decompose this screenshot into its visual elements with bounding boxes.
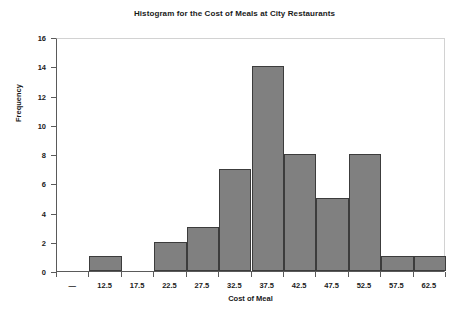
x-tick-mark xyxy=(445,272,446,277)
histogram-bar xyxy=(219,169,251,271)
chart-title: Histogram for the Cost of Meals at City … xyxy=(0,9,469,18)
histogram-bar xyxy=(154,242,186,271)
y-tick-label: 0 xyxy=(42,268,46,277)
x-axis: —12.517.522.527.532.537.542.547.552.557.… xyxy=(56,272,445,312)
x-tick-label: 37.5 xyxy=(259,281,274,290)
histogram-bar xyxy=(284,154,316,271)
x-tick-mark xyxy=(186,272,187,277)
y-tick-label: 14 xyxy=(38,63,46,72)
x-tick-label: 62.5 xyxy=(421,281,436,290)
y-tick-label: 10 xyxy=(38,121,46,130)
y-axis-title: Frequency xyxy=(14,84,23,122)
y-tick-label: 12 xyxy=(38,92,46,101)
x-tick-label: 52.5 xyxy=(357,281,372,290)
y-tick-label: 8 xyxy=(42,151,46,160)
bars-layer xyxy=(57,39,444,271)
y-tick-label: 4 xyxy=(42,209,46,218)
x-tick-label: 17.5 xyxy=(130,281,145,290)
x-tick-mark xyxy=(153,272,154,277)
plot-area xyxy=(56,38,445,272)
histogram-bar xyxy=(89,256,121,271)
x-axis-title: Cost of Meal xyxy=(56,294,445,303)
x-tick-mark xyxy=(218,272,219,277)
x-tick-label: 27.5 xyxy=(195,281,210,290)
histogram-bar xyxy=(381,256,413,271)
x-tick-label: — xyxy=(68,281,76,290)
x-tick-label: 47.5 xyxy=(324,281,339,290)
x-tick-label: 12.5 xyxy=(97,281,112,290)
x-tick-mark xyxy=(56,272,57,277)
histogram-bar xyxy=(252,66,284,271)
histogram-bar xyxy=(414,256,446,271)
x-tick-mark xyxy=(315,272,316,277)
x-tick-mark xyxy=(348,272,349,277)
y-axis: 0246810121416 xyxy=(0,0,56,322)
histogram-bar xyxy=(349,154,381,271)
y-tick-label: 16 xyxy=(38,34,46,43)
x-tick-mark xyxy=(121,272,122,277)
x-tick-label: 42.5 xyxy=(292,281,307,290)
y-tick-label: 6 xyxy=(42,180,46,189)
x-tick-mark xyxy=(88,272,89,277)
y-tick-label: 2 xyxy=(42,238,46,247)
x-tick-label: 22.5 xyxy=(162,281,177,290)
x-tick-mark xyxy=(413,272,414,277)
x-tick-mark xyxy=(283,272,284,277)
histogram-bar xyxy=(316,198,348,271)
histogram-bar xyxy=(187,227,219,271)
histogram-chart: Histogram for the Cost of Meals at City … xyxy=(0,0,469,322)
x-tick-mark xyxy=(251,272,252,277)
x-tick-label: 57.5 xyxy=(389,281,404,290)
x-tick-label: 32.5 xyxy=(227,281,242,290)
x-tick-mark xyxy=(380,272,381,277)
